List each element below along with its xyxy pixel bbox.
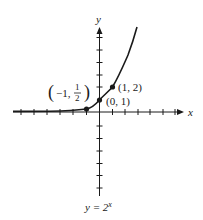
left-paren: ( <box>48 82 54 103</box>
graph-canvas: x y <box>0 0 203 220</box>
caption-base: y = 2 <box>84 201 109 213</box>
function-caption: y = 2x <box>84 200 112 213</box>
label-0-1: (0, 1) <box>106 95 130 108</box>
point-neg1-half <box>84 106 89 111</box>
caption-exponent: x <box>107 200 112 209</box>
y-axis-arrow-icon <box>97 27 103 34</box>
exponential-graph-figure: x y <box>0 0 203 220</box>
label-1-2: (1, 2) <box>118 81 142 94</box>
x-axis-arrow-icon <box>177 109 184 115</box>
fraction-numerator: 1 <box>75 82 80 92</box>
label-neg1-text: −1, <box>56 87 71 99</box>
y-axis-label: y <box>95 13 101 25</box>
x-axis-label: x <box>187 106 193 118</box>
point-1-2 <box>110 84 115 89</box>
point-0-1 <box>97 97 102 102</box>
right-paren: ) <box>84 82 90 103</box>
caption-text: y = 2x <box>84 200 112 213</box>
fraction-denominator: 2 <box>75 93 80 103</box>
label-neg1-half: ( −1, 1 2 ) <box>48 82 90 103</box>
